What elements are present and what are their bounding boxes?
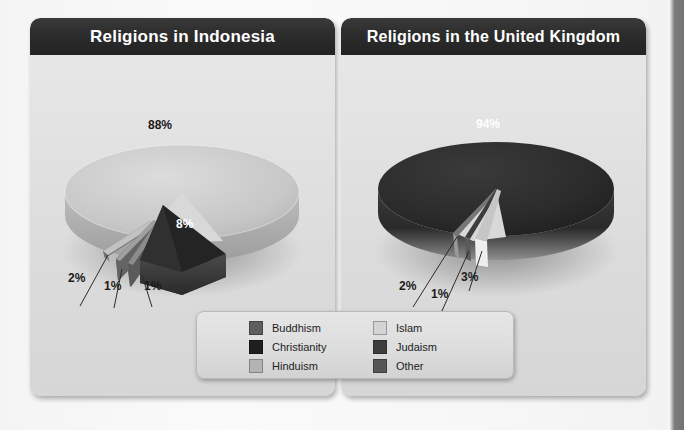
legend-item-buddhism: Buddhism — [249, 319, 326, 337]
panel-title-uk: Religions in the United Kingdom — [341, 18, 646, 55]
legend-swatch-other — [373, 359, 387, 373]
legend-label-buddhism: Buddhism — [272, 322, 321, 334]
legend-swatch-judaism — [373, 340, 387, 354]
pie-label-94pct: 94% — [476, 117, 500, 131]
legend-item-judaism: Judaism — [373, 338, 437, 356]
legend-swatch-hinduism — [249, 359, 263, 373]
legend-swatch-buddhism — [249, 321, 263, 335]
legend-label-hinduism: Hinduism — [272, 360, 318, 372]
pie-label-3pct: 3% — [461, 270, 478, 284]
legend-swatch-islam — [373, 321, 387, 335]
legend-label-islam: Islam — [396, 322, 422, 334]
pie-label-2pct: 2% — [68, 271, 85, 285]
legend-column-left: Buddhism Christianity Hinduism — [249, 319, 326, 376]
pie-label-1pct: 1% — [431, 287, 448, 301]
pie-label-2pct: 2% — [399, 279, 416, 293]
legend-item-hinduism: Hinduism — [249, 357, 326, 375]
page-edge-strip — [668, 0, 684, 430]
chart-legend: Buddhism Christianity Hinduism Islam Jud… — [196, 311, 514, 379]
pie-label-88pct: 88% — [148, 118, 172, 132]
pie-label-8pct: 8% — [176, 217, 193, 231]
legend-column-right: Islam Judaism Other — [373, 319, 437, 376]
legend-label-christianity: Christianity — [272, 341, 326, 353]
legend-label-judaism: Judaism — [396, 341, 437, 353]
legend-label-other: Other — [396, 360, 424, 372]
panel-title-indonesia: Religions in Indonesia — [30, 18, 335, 55]
legend-item-islam: Islam — [373, 319, 437, 337]
legend-item-other: Other — [373, 357, 437, 375]
legend-item-christianity: Christianity — [249, 338, 326, 356]
pie-label-1pct-a: 1% — [104, 279, 121, 293]
pie-label-1pct-b: 1% — [144, 279, 161, 293]
legend-swatch-christianity — [249, 340, 263, 354]
